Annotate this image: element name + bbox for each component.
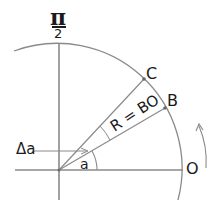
rotation-arrow-arc [199, 126, 206, 168]
point-b-label: B [167, 93, 178, 109]
origin-dot [58, 169, 61, 172]
delta-a-label: Δa [16, 142, 35, 157]
point-o-label: O [186, 161, 199, 177]
angle-a-label: a [80, 157, 89, 171]
angle-a-arc [92, 151, 97, 170]
two-label: 2 [54, 27, 62, 40]
pi-label: π [50, 6, 66, 28]
diagram-canvas [0, 0, 219, 213]
point-c-label: C [146, 66, 157, 82]
angle-delta-arc [100, 126, 110, 140]
